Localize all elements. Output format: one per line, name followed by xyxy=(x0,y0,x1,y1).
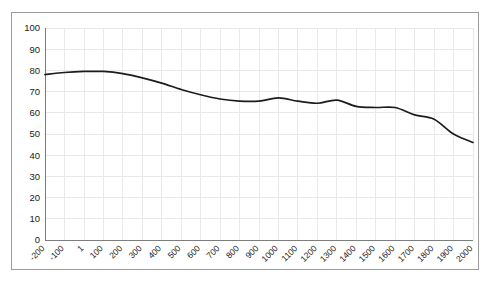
x-axis-tick-label: 1500 xyxy=(357,243,378,264)
y-axis-tick-label: 100 xyxy=(24,22,40,33)
x-axis-tick-label: 500 xyxy=(165,243,182,260)
y-axis-tick-label: 80 xyxy=(29,65,40,76)
y-axis-tick-label: 60 xyxy=(29,107,40,118)
y-axis-tick-label: 10 xyxy=(29,213,40,224)
x-axis-tick-label: 1 xyxy=(75,243,86,254)
x-axis-tick-label: 1800 xyxy=(415,243,436,264)
gridlines-group xyxy=(45,28,473,240)
x-axis-tick-label: 700 xyxy=(204,243,221,260)
x-axis-tick-label: 1900 xyxy=(435,243,456,264)
y-axis-tick-label: 90 xyxy=(29,44,40,55)
x-axis-labels-group: -200-10011002003004005006007008009001000… xyxy=(27,243,474,264)
x-axis-tick-label: 400 xyxy=(146,243,163,260)
x-axis-tick-label: 100 xyxy=(88,243,105,260)
x-axis-tick-label: 1300 xyxy=(318,243,339,264)
x-axis-tick-label: 1000 xyxy=(259,243,280,264)
x-axis-tick-label: 900 xyxy=(243,243,260,260)
x-axis-tick-label: 1400 xyxy=(337,243,358,264)
x-axis-tick-label: 1200 xyxy=(298,243,319,264)
x-axis-tick-label: 600 xyxy=(185,243,202,260)
y-axis-tick-label: 70 xyxy=(29,86,40,97)
x-axis-tick-label: 300 xyxy=(127,243,144,260)
x-axis-tick-label: 1700 xyxy=(396,243,417,264)
y-axis-tick-label: 50 xyxy=(29,128,40,139)
x-axis-tick-label: 800 xyxy=(224,243,241,260)
x-axis-tick-label: 200 xyxy=(107,243,124,260)
plot-area: 0102030405060708090100 -200-100110020030… xyxy=(12,13,478,269)
x-axis-tick-label: 1600 xyxy=(376,243,397,264)
y-axis-tick-label: 20 xyxy=(29,192,40,203)
x-axis-tick-label: 2000 xyxy=(454,243,475,264)
y-axis-tick-label: 40 xyxy=(29,150,40,161)
x-axis-tick-label: -200 xyxy=(27,243,46,262)
x-axis-tick-label: 1100 xyxy=(279,243,299,263)
y-axis-labels-group: 0102030405060708090100 xyxy=(24,22,40,245)
chart-frame: 0102030405060708090100 -200-100110020030… xyxy=(11,12,479,270)
x-axis-tick-label: -100 xyxy=(47,243,66,262)
line-chart: 0102030405060708090100 -200-100110020030… xyxy=(12,13,478,269)
y-axis-tick-label: 30 xyxy=(29,171,40,182)
